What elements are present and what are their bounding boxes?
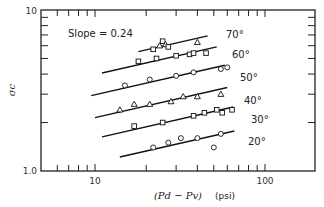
triangle-marker <box>131 101 137 106</box>
circle-marker <box>166 140 171 145</box>
series-label-40: 40° <box>244 95 262 106</box>
triangle-marker <box>218 91 224 96</box>
circle-marker <box>211 145 216 150</box>
square-marker <box>151 47 156 52</box>
chart: 10 1.0 10 100 σc (Pd − Pv) (psi) Slope =… <box>0 0 324 207</box>
series-label-70: 70° <box>226 29 244 40</box>
square-marker <box>204 51 209 56</box>
square-marker <box>136 59 141 64</box>
square-marker <box>160 39 165 44</box>
x-axis-unit: (psi) <box>215 191 235 201</box>
square-marker <box>166 45 171 50</box>
square-marker <box>174 53 179 58</box>
circle-marker <box>218 67 223 72</box>
square-marker <box>214 107 219 112</box>
y-tick-1: 1.0 <box>23 166 38 176</box>
triangle-marker <box>147 101 153 106</box>
square-marker <box>132 124 137 129</box>
series-label-60: 60° <box>232 49 250 60</box>
circle-marker <box>147 77 152 82</box>
x-tick-100: 100 <box>256 176 273 186</box>
x-axis-title: (Pd − Pv) <box>154 190 202 201</box>
square-marker <box>220 110 225 115</box>
circle-marker <box>225 65 230 70</box>
square-marker <box>191 51 196 56</box>
circle-marker <box>195 136 200 141</box>
square-marker <box>202 110 207 115</box>
circle-marker <box>151 145 156 150</box>
square-marker <box>191 114 196 119</box>
circle-marker <box>174 73 179 78</box>
series-label-50: 50° <box>240 72 258 83</box>
triangle-marker <box>117 107 123 112</box>
circle-marker <box>122 83 127 88</box>
x-tick-10: 10 <box>89 176 101 186</box>
series-label-30: 30° <box>251 114 269 125</box>
y-axis-title: σc <box>6 83 17 96</box>
y-tick-10: 10 <box>26 6 38 16</box>
circle-marker <box>218 131 223 136</box>
series-label-20: 20° <box>248 136 266 147</box>
triangle-marker <box>180 94 186 99</box>
circle-marker <box>178 136 183 141</box>
slope-annotation: Slope = 0.24 <box>68 28 133 39</box>
square-marker <box>154 56 159 61</box>
data-markers <box>117 39 235 150</box>
square-marker <box>230 107 235 112</box>
triangle-marker <box>194 39 200 44</box>
fit-lines <box>91 36 234 157</box>
square-marker <box>160 120 165 125</box>
circle-marker <box>191 70 196 75</box>
